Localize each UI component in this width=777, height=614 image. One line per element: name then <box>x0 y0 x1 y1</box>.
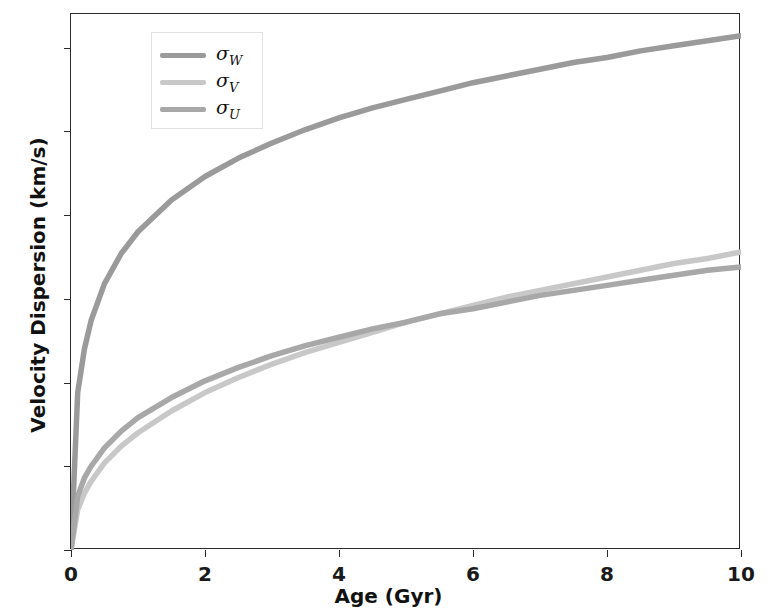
legend-swatch-sigma_V <box>160 80 206 85</box>
legend-item-sigma_U[interactable]: σU <box>160 96 254 123</box>
x-tick-10 <box>741 550 742 557</box>
legend-label-sigma_U: σU <box>216 98 240 121</box>
legend-label-sigma_V: σV <box>216 71 238 94</box>
x-tick-label-2: 2 <box>198 562 212 586</box>
y-tick-5 <box>64 466 71 467</box>
velocity-dispersion-chart: Velocity Dispersion (km/s) Age (Gyr) 051… <box>0 0 777 614</box>
x-tick-label-6: 6 <box>466 562 480 586</box>
x-tick-8 <box>607 550 608 557</box>
legend-label-sigma_W: σW <box>216 44 242 67</box>
plot-frame: 051015202530 0246810 σWσVσU <box>70 13 740 549</box>
x-axis-title: Age (Gyr) <box>0 584 777 608</box>
x-tick-6 <box>473 550 474 557</box>
y-tick-30 <box>64 48 71 49</box>
legend: σWσVσU <box>151 32 263 129</box>
x-tick-label-0: 0 <box>64 562 78 586</box>
legend-swatch-sigma_U <box>160 107 206 112</box>
legend-swatch-sigma_W <box>160 53 206 58</box>
y-tick-10 <box>64 383 71 384</box>
y-tick-15 <box>64 299 71 300</box>
x-tick-4 <box>339 550 340 557</box>
legend-item-sigma_V[interactable]: σV <box>160 69 254 96</box>
y-axis-title: Velocity Dispersion (km/s) <box>26 25 50 545</box>
x-tick-label-10: 10 <box>727 562 755 586</box>
legend-item-sigma_W[interactable]: σW <box>160 42 254 69</box>
y-tick-0 <box>64 550 71 551</box>
x-tick-0 <box>71 550 72 557</box>
y-tick-25 <box>64 131 71 132</box>
x-tick-label-4: 4 <box>332 562 346 586</box>
curve-sigma_V <box>71 252 741 550</box>
x-tick-2 <box>205 550 206 557</box>
x-tick-label-8: 8 <box>600 562 614 586</box>
y-tick-20 <box>64 215 71 216</box>
